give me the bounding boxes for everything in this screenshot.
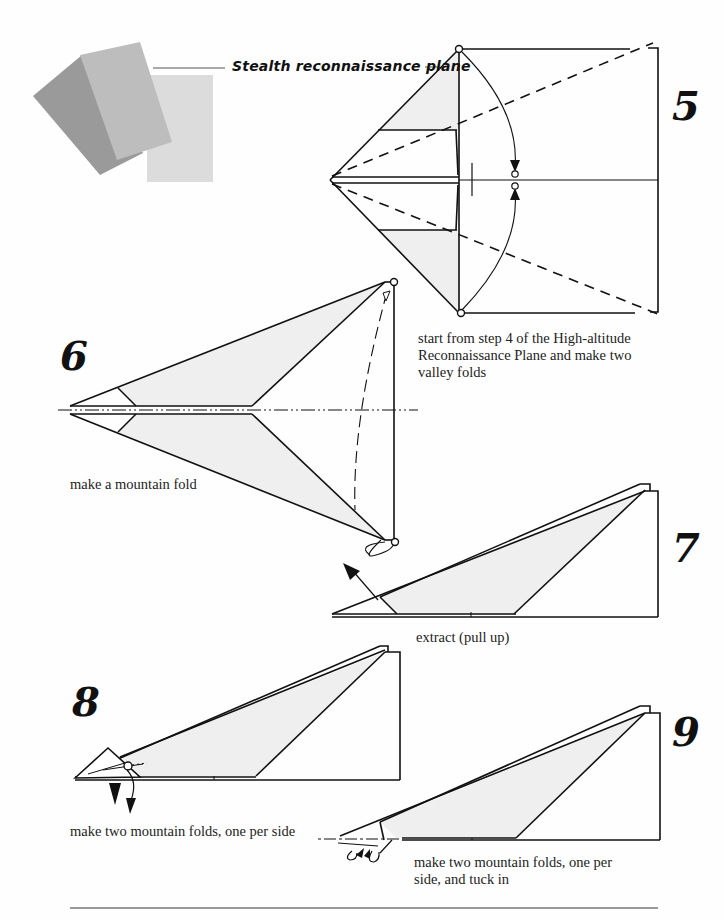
step-9-caption-line-1: make two mountain folds, one per	[414, 854, 674, 871]
step-7-diagram	[332, 484, 658, 617]
page-title: Stealth reconnaissance plane	[232, 58, 471, 74]
step-9-caption-line-2: side, and tuck in	[414, 871, 674, 888]
step-9-number: 9	[672, 712, 700, 752]
step-5-caption: start from step 4 of the High-altitude R…	[418, 330, 698, 381]
step-6-caption: make a mountain fold	[70, 476, 197, 493]
step-8-diagram	[75, 646, 400, 814]
step-6-number: 6	[60, 336, 88, 376]
step-5-caption-line-2: Reconnaissance Plane and make two	[418, 347, 698, 364]
step-7-number: 7	[672, 528, 700, 568]
step-8-number: 8	[72, 682, 100, 722]
step-5-diagram	[330, 43, 658, 317]
step-9-diagram	[318, 706, 660, 862]
step-7-caption: extract (pull up)	[416, 629, 509, 646]
step-9-caption: make two mountain folds, one per side, a…	[414, 854, 674, 888]
step-5-caption-line-1: start from step 4 of the High-altitude	[418, 330, 698, 347]
origami-instruction-page: Stealth reconnaissance plane 5 6 7 8 9 s…	[0, 0, 723, 921]
step-5-caption-line-3: valley folds	[418, 364, 698, 381]
step-5-number: 5	[672, 86, 700, 126]
step-8-caption: make two mountain folds, one per side	[70, 823, 295, 840]
step-6-diagram	[58, 279, 418, 557]
